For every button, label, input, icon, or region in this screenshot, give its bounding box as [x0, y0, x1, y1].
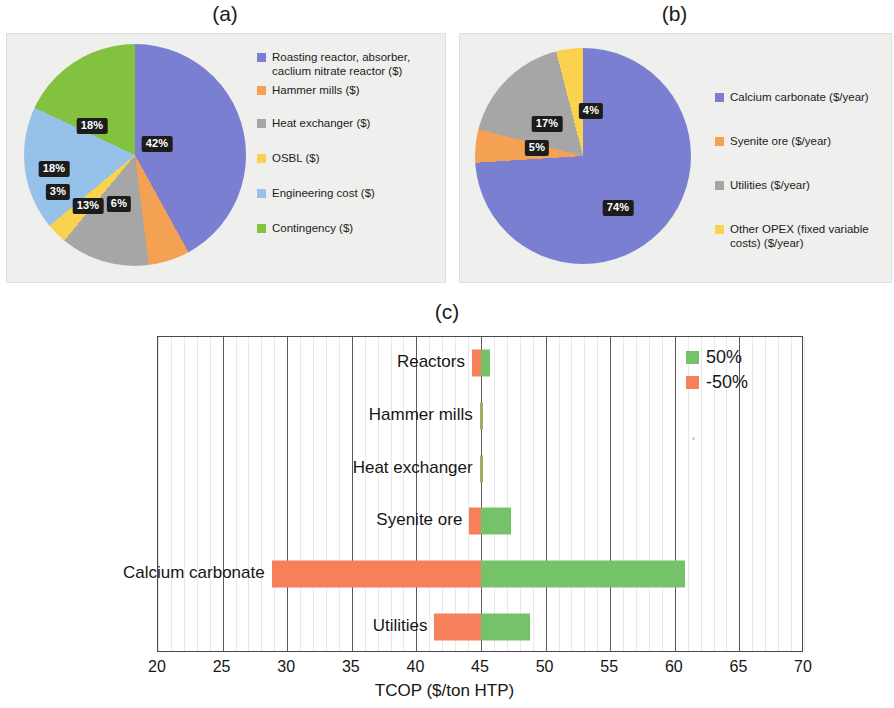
panel-b-legend: Calcium carbonate ($/year) Syenite ore (…: [715, 90, 891, 252]
pie-chart-b: 74% 5% 17% 4%: [475, 48, 691, 264]
legend-item: Syenite ore ($/year): [715, 134, 891, 148]
legend-label: Syenite ore ($/year): [730, 134, 831, 148]
bar-positive: [481, 455, 483, 482]
legend-item-neg: -50%: [686, 373, 748, 391]
legend-swatch-icon: [257, 224, 266, 233]
panel-b-caption: (b): [459, 2, 890, 26]
pie-a-slices: [24, 44, 246, 266]
legend-label: -50%: [706, 373, 748, 391]
bar-row-label: Syenite ore: [0, 510, 466, 530]
bar-row-label: Calcium carbonate: [0, 563, 269, 583]
legend-label: OSBL ($): [272, 151, 320, 165]
pie-b-label-purple: 74%: [603, 200, 634, 216]
legend-label: Contingency ($): [272, 221, 353, 235]
bar-negative: [272, 560, 481, 587]
bar-negative: [472, 350, 481, 377]
legend-label: Heat exchanger ($): [272, 116, 370, 130]
bar-row-label: Heat exchanger: [0, 458, 477, 478]
x-axis-title-text: TCOP ($/ton HTP): [375, 681, 515, 701]
legend-swatch-icon: [715, 93, 724, 102]
bar-negative: [469, 508, 481, 535]
top-panels-row: (a) (b) 42% 6% 13% 3% 18% 18% Roasting r…: [0, 0, 894, 292]
x-tick-label: 55: [600, 658, 618, 676]
legend-item-pos: 50%: [686, 348, 748, 366]
legend-swatch-icon: [257, 86, 266, 95]
panel-c-legend: 50% -50%: [686, 348, 748, 398]
legend-swatch-icon: [715, 225, 724, 234]
x-tick-label: 40: [406, 658, 424, 676]
bar-positive: [481, 350, 490, 377]
pie-a-label-yellow: 3%: [46, 184, 70, 200]
legend-item: Other OPEX (fixed variable costs) ($/yea…: [715, 222, 891, 250]
legend-swatch-icon: [715, 137, 724, 146]
legend-label: Utilities ($/year): [730, 178, 810, 192]
x-tick-label: 45: [471, 658, 489, 676]
legend-swatch-icon: [715, 181, 724, 190]
x-tick-label: 35: [342, 658, 360, 676]
pie-b-label-yellow: 4%: [579, 103, 603, 119]
pie-a-label-gray: 13%: [73, 198, 104, 214]
pie-b-slices: [475, 48, 691, 264]
bar-positive: [481, 613, 530, 640]
legend-swatch-icon: [257, 119, 266, 128]
legend-swatch-icon: [686, 376, 699, 389]
bar-positive: [481, 560, 685, 587]
legend-item: Contingency ($): [257, 221, 445, 235]
legend-item: Calcium carbonate ($/year): [715, 90, 891, 104]
bar-row-label: Hammer mills: [0, 405, 477, 425]
panel-a-caption: (a): [6, 2, 444, 26]
x-tick-label: 25: [213, 658, 231, 676]
legend-label: Roasting reactor, absorber, caclium nitr…: [272, 50, 445, 78]
pie-b-label-orange: 5%: [525, 140, 549, 156]
panel-a: 42% 6% 13% 3% 18% 18% Roasting reactor, …: [6, 33, 446, 283]
pie-a-label-blue: 18%: [39, 161, 70, 177]
legend-label: Other OPEX (fixed variable costs) ($/yea…: [730, 222, 891, 250]
legend-item: OSBL ($): [257, 151, 445, 165]
bar-positive: [481, 402, 483, 429]
x-tick-label: 50: [536, 658, 554, 676]
legend-item: Utilities ($/year): [715, 178, 891, 192]
legend-swatch-icon: [257, 189, 266, 198]
legend-item: Heat exchanger ($): [257, 116, 445, 130]
bar-positive: [481, 508, 511, 535]
x-tick-label: 70: [794, 658, 812, 676]
legend-swatch-icon: [257, 154, 266, 163]
legend-swatch-icon: [686, 351, 699, 364]
x-axis-title: TCOP ($/ton HTP): [0, 681, 894, 701]
legend-item: Roasting reactor, absorber, caclium nitr…: [257, 50, 445, 78]
legend-label: 50%: [706, 348, 742, 366]
scan-speck: [692, 437, 695, 440]
legend-swatch-icon: [257, 53, 266, 62]
legend-label: Hammer mills ($): [272, 83, 360, 97]
pie-chart-a: 42% 6% 13% 3% 18% 18%: [24, 44, 246, 266]
pie-a-label-purple: 42%: [142, 136, 173, 152]
pie-b-label-gray: 17%: [532, 116, 563, 132]
x-tick-label: 30: [277, 658, 295, 676]
x-tick-label: 60: [665, 658, 683, 676]
panel-a-legend: Roasting reactor, absorber, caclium nitr…: [257, 50, 445, 237]
panel-c: ReactorsHammer millsHeat exchangerSyenit…: [0, 322, 894, 708]
panel-b: 74% 5% 17% 4% Calcium carbonate ($/year)…: [459, 33, 892, 283]
pie-a-label-orange: 6%: [107, 196, 131, 212]
panel-c-caption: (c): [0, 300, 894, 324]
bar-negative: [434, 613, 481, 640]
x-tick-label: 20: [148, 658, 166, 676]
x-tick-label: 65: [729, 658, 747, 676]
legend-item: Engineering cost ($): [257, 186, 445, 200]
legend-item: Hammer mills ($): [257, 83, 445, 97]
legend-label: Calcium carbonate ($/year): [730, 90, 869, 104]
bar-row-label: Reactors: [0, 352, 469, 372]
pie-a-label-green: 18%: [77, 118, 108, 134]
bar-row-label: Utilities: [0, 616, 431, 636]
gridline-minor: [804, 337, 805, 651]
legend-label: Engineering cost ($): [272, 186, 375, 200]
